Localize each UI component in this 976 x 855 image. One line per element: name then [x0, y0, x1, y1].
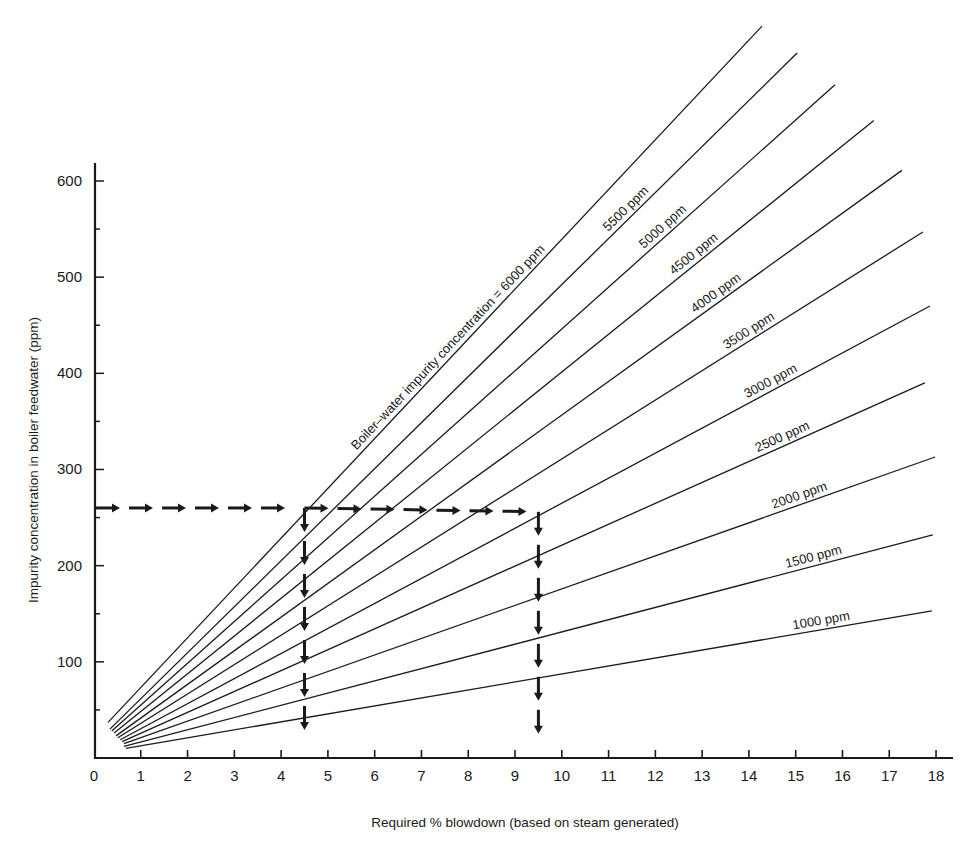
x-tick-label: 0: [90, 767, 98, 784]
arrowhead-icon: [211, 503, 219, 512]
series-line-2000-ppm: [124, 457, 935, 744]
x-axis-title: Required % blowdown (based on steam gene…: [371, 815, 679, 830]
series-line-4500-ppm: [114, 120, 874, 733]
arrowhead-icon: [277, 503, 285, 512]
x-tick-label: 4: [277, 767, 285, 784]
x-tick-label: 15: [787, 767, 804, 784]
x-tick-label: 14: [741, 767, 758, 784]
series-label: 5000 ppm: [636, 201, 689, 251]
y-tick-label: 100: [57, 653, 82, 670]
y-tick-label: 200: [57, 557, 82, 574]
x-tick-label: 11: [601, 767, 617, 784]
arrowhead-icon: [112, 503, 120, 512]
series-label: 4500 ppm: [666, 230, 720, 278]
series-label: 2000 ppm: [769, 478, 829, 511]
arrowhead-icon: [244, 503, 252, 512]
arrowhead-icon: [386, 505, 394, 514]
arrowhead-icon: [534, 726, 543, 734]
arrowhead-icon: [485, 506, 493, 515]
series-line-5000-ppm: [112, 85, 835, 731]
y-axis-title: Impurity concentration in boiler feedwat…: [26, 317, 41, 603]
series-line-4000-ppm: [116, 170, 902, 735]
x-tick-label: 2: [183, 767, 191, 784]
series-lines: [108, 26, 935, 748]
arrowhead-icon: [300, 623, 309, 631]
series-line-6000-ppm: [108, 26, 762, 722]
blowdown-chart: 0123456789101112131415161718100200300400…: [0, 0, 976, 855]
arrowhead-icon: [518, 507, 526, 516]
arrowhead-icon: [320, 504, 328, 513]
series-line-3500-ppm: [118, 232, 923, 738]
arrowhead-icon: [534, 627, 543, 635]
arrowhead-icon: [145, 503, 153, 512]
x-tick-label: 16: [834, 767, 851, 784]
arrowhead-icon: [534, 693, 543, 701]
arrowhead-icon: [300, 689, 309, 697]
axes: [94, 163, 953, 759]
x-tick-label: 1: [137, 767, 145, 784]
series-line-1500-ppm: [124, 535, 933, 747]
series-line-3000-ppm: [120, 306, 930, 740]
x-tick-label: 13: [694, 767, 711, 784]
x-tick-label: 3: [230, 767, 238, 784]
y-tick-label: 400: [57, 364, 82, 381]
x-tick-label: 10: [553, 767, 570, 784]
series-labels: Boiler–water impurity concentration = 60…: [348, 183, 851, 632]
x-tick-label: 6: [371, 767, 379, 784]
y-tick-label: 300: [57, 460, 82, 477]
x-tick-label: 7: [417, 767, 425, 784]
series-label: 4000 ppm: [688, 270, 744, 316]
arrowhead-icon: [300, 590, 309, 598]
arrowhead-icon: [300, 524, 309, 532]
x-tick-label: 18: [928, 767, 945, 784]
x-tick-label: 12: [647, 767, 664, 784]
arrowhead-icon: [452, 506, 460, 515]
x-tick-label: 9: [511, 767, 519, 784]
series-label: 3500 ppm: [720, 309, 777, 352]
arrowhead-icon: [534, 660, 543, 668]
y-tick-label: 600: [57, 172, 82, 189]
x-tick-label: 5: [324, 767, 332, 784]
series-label: Boiler–water impurity concentration = 60…: [348, 241, 548, 452]
y-tick-label: 500: [57, 268, 82, 285]
x-tick-label: 8: [464, 767, 472, 784]
x-tick-label: 17: [881, 767, 898, 784]
arrowhead-icon: [534, 528, 543, 536]
series-label: 2500 ppm: [753, 418, 812, 455]
arrowhead-icon: [300, 656, 309, 664]
arrowhead-icon: [178, 503, 186, 512]
series-line-1000-ppm: [126, 611, 932, 749]
arrowhead-icon: [300, 722, 309, 730]
series-label: 1000 ppm: [791, 608, 851, 633]
arrowhead-icon: [534, 561, 543, 569]
